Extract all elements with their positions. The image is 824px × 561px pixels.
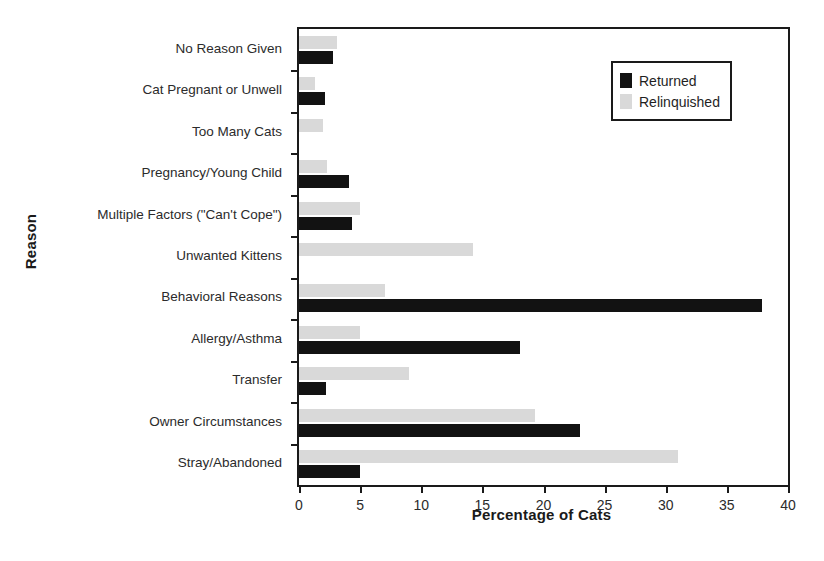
bar-relinquished bbox=[299, 450, 678, 463]
y-axis-tick-label: Behavioral Reasons bbox=[161, 289, 282, 304]
x-axis-title: Percentage of Cats bbox=[297, 506, 786, 523]
y-axis-tick-mark bbox=[291, 70, 299, 72]
legend-swatch-relinquished-icon bbox=[620, 94, 632, 109]
bar-relinquished bbox=[299, 409, 535, 422]
x-axis-tick-mark bbox=[605, 485, 607, 493]
bar-returned bbox=[299, 465, 360, 478]
y-axis-tick-label: Owner Circumstances bbox=[149, 413, 282, 428]
y-axis-tick-mark bbox=[291, 195, 299, 197]
bar-returned bbox=[299, 217, 352, 230]
y-axis-tick-mark bbox=[291, 278, 299, 280]
y-axis-tick-mark bbox=[291, 402, 299, 404]
y-axis-tick-label: Allergy/Asthma bbox=[191, 330, 282, 345]
legend-label-relinquished: Relinquished bbox=[639, 94, 720, 110]
bar-relinquished bbox=[299, 77, 315, 90]
y-axis-tick-mark bbox=[291, 236, 299, 238]
bar-relinquished bbox=[299, 119, 323, 132]
legend-label-returned: Returned bbox=[639, 73, 697, 89]
y-axis-title-text: Reason bbox=[23, 214, 40, 269]
y-axis-tick-label: Multiple Factors ("Can't Cope") bbox=[97, 206, 282, 221]
bar-chart-figure: Reason No Reason GivenCat Pregnant or Un… bbox=[0, 0, 824, 561]
y-axis-tick-mark bbox=[291, 444, 299, 446]
bar-relinquished bbox=[299, 284, 385, 297]
bar-returned bbox=[299, 299, 762, 312]
bar-returned bbox=[299, 51, 333, 64]
bar-relinquished bbox=[299, 160, 327, 173]
y-axis-tick-mark bbox=[291, 361, 299, 363]
y-axis-tick-label: Unwanted Kittens bbox=[176, 248, 282, 263]
y-axis-tick-label: No Reason Given bbox=[175, 40, 282, 55]
x-axis-tick-mark bbox=[666, 485, 668, 493]
legend-item-returned: Returned bbox=[620, 70, 720, 91]
y-axis-tick-labels: No Reason GivenCat Pregnant or UnwellToo… bbox=[40, 27, 290, 483]
bar-returned bbox=[299, 424, 580, 437]
x-axis-tick-mark bbox=[482, 485, 484, 493]
y-axis-tick-label: Cat Pregnant or Unwell bbox=[142, 82, 282, 97]
bar-relinquished bbox=[299, 367, 409, 380]
chart-legend: Returned Relinquished bbox=[611, 61, 732, 121]
y-axis-tick-label: Stray/Abandoned bbox=[178, 455, 282, 470]
x-axis-tick-mark bbox=[788, 485, 790, 493]
bar-returned bbox=[299, 92, 325, 105]
x-axis-tick-mark bbox=[299, 485, 301, 493]
bar-relinquished bbox=[299, 202, 360, 215]
y-axis-tick-label: Too Many Cats bbox=[192, 123, 282, 138]
bar-relinquished bbox=[299, 326, 360, 339]
x-axis-tick-mark bbox=[421, 485, 423, 493]
y-axis-tick-label: Transfer bbox=[232, 372, 282, 387]
y-axis-tick-label: Pregnancy/Young Child bbox=[141, 165, 282, 180]
legend-item-relinquished: Relinquished bbox=[620, 91, 720, 112]
x-axis-tick-mark bbox=[360, 485, 362, 493]
bar-relinquished bbox=[299, 243, 473, 256]
bar-returned bbox=[299, 175, 349, 188]
y-axis-tick-mark bbox=[291, 319, 299, 321]
bar-returned bbox=[299, 382, 326, 395]
bar-returned bbox=[299, 341, 520, 354]
x-axis-tick-mark bbox=[544, 485, 546, 493]
y-axis-tick-mark bbox=[291, 112, 299, 114]
legend-swatch-returned-icon bbox=[620, 73, 632, 88]
x-axis-tick-mark bbox=[727, 485, 729, 493]
y-axis-tick-mark bbox=[291, 153, 299, 155]
bar-relinquished bbox=[299, 36, 337, 49]
